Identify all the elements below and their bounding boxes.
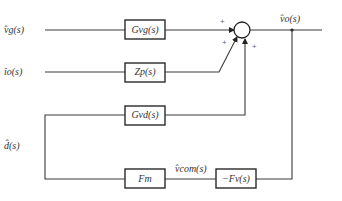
vg-label: v̂g(s) bbox=[4, 24, 25, 36]
d-label: d̂(s) bbox=[4, 139, 20, 152]
gvd-block-label: Gvd(s) bbox=[131, 109, 159, 121]
fm-block-label: Fm bbox=[137, 173, 151, 184]
sign-bottom: + bbox=[252, 42, 257, 51]
feedback-wire bbox=[256, 30, 292, 179]
block-diagram: v̂g(s) îo(s) d̂(s) v̂o(s) v̂com(s) Gvg(s… bbox=[0, 0, 342, 201]
gvd-to-sum-wire bbox=[165, 39, 245, 115]
d-wire bbox=[45, 115, 125, 179]
output-label: v̂o(s) bbox=[280, 13, 301, 25]
fv-block-label: −Fv(s) bbox=[222, 173, 251, 185]
gvg-block-label: Gvg(s) bbox=[131, 24, 159, 36]
summing-junction bbox=[234, 22, 250, 38]
sign-left: + bbox=[222, 38, 227, 47]
zp-block-label: Zp(s) bbox=[134, 66, 156, 78]
vcom-label: v̂com(s) bbox=[175, 163, 207, 175]
io-label: îo(s) bbox=[4, 66, 23, 78]
sign-top: + bbox=[220, 17, 225, 26]
